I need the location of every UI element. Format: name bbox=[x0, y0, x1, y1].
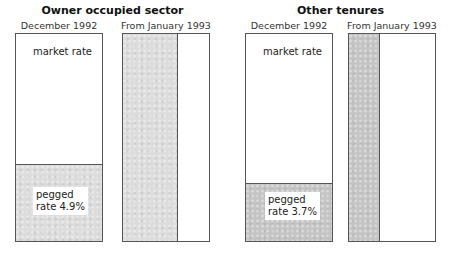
pegged-text: pegged bbox=[268, 194, 317, 206]
pegged-rate-region bbox=[349, 34, 380, 241]
panel-title-owner: Owner occupied sector bbox=[15, 4, 210, 17]
market-rate-label: market rate bbox=[263, 46, 322, 57]
pegged-rate-label: pegged rate 4.9% bbox=[33, 187, 88, 215]
other-dec-1992-box: market rate pegged rate 3.7% bbox=[245, 33, 333, 242]
pegged-rate-value: rate 3.7% bbox=[268, 206, 317, 218]
column-label-dec-1992: December 1992 bbox=[245, 20, 333, 31]
column-label-jan-1993: From January 1993 bbox=[118, 20, 214, 31]
column-label-dec-1992: December 1992 bbox=[15, 20, 103, 31]
owner-dec-1992-box: market rate pegged rate 4.9% bbox=[15, 33, 103, 242]
panel-title-other: Other tenures bbox=[245, 4, 436, 17]
column-label-jan-1993: From January 1993 bbox=[344, 20, 440, 31]
market-rate-label: market rate bbox=[33, 46, 92, 57]
pegged-text: pegged bbox=[36, 189, 85, 201]
pegged-rate-value: rate 4.9% bbox=[36, 201, 85, 213]
pegged-rate-region bbox=[123, 34, 178, 241]
owner-jan-1993-box bbox=[122, 33, 210, 242]
pegged-rate-label: pegged rate 3.7% bbox=[265, 192, 320, 220]
other-jan-1993-box bbox=[348, 33, 436, 242]
